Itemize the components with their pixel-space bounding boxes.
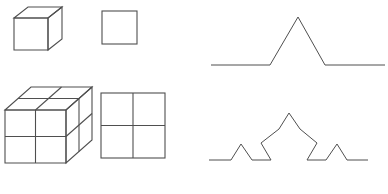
koch-curve-iteration-1-path [211,17,385,65]
cube-subdivided [5,87,92,163]
koch-curve-iteration-1 [211,17,385,65]
cube-unit-right-face [48,7,62,50]
square-unit-outline [102,11,137,44]
figure-canvas [0,0,388,194]
koch-curve-iteration-2-path [209,113,368,160]
cube-unit-front-face [14,18,48,50]
koch-curve-iteration-2 [209,113,368,160]
square-unit [102,11,137,44]
cube-unit [14,7,62,50]
figure-svg [0,0,388,194]
square-subdivided [101,93,165,158]
